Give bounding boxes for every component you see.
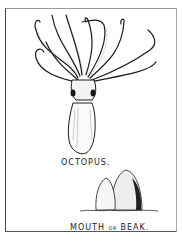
beak-caption-mouth: MOUTH <box>70 223 105 232</box>
beak-caption-beak: BEAK. <box>120 223 149 232</box>
beak-caption-or: OR <box>109 225 117 231</box>
beak-front <box>96 178 115 210</box>
octopus-caption: OCTOPUS. <box>61 158 110 167</box>
beak-illustration <box>80 170 158 211</box>
octopus-illustration <box>0 0 182 244</box>
octopus-arms <box>35 15 156 82</box>
beak-caption: MOUTH OR BEAK. <box>70 223 149 232</box>
octopus-eye-right <box>91 90 96 97</box>
octopus-eye-left <box>71 90 76 97</box>
